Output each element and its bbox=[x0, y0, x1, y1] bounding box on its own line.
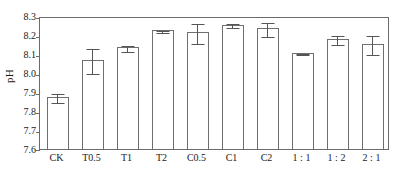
y-axis-tick-label: 8.2 bbox=[24, 31, 37, 41]
error-bar-cap-bottom bbox=[331, 45, 344, 46]
plot-inner bbox=[40, 18, 388, 149]
error-bar-cap-bottom bbox=[51, 103, 64, 104]
x-axis-tick-label: C0.5 bbox=[179, 152, 214, 164]
plot-area bbox=[39, 17, 389, 150]
bar bbox=[257, 28, 279, 149]
error-bar bbox=[296, 54, 309, 56]
error-bar-cap-top bbox=[86, 49, 99, 50]
y-axis-tick-label: 7.6 bbox=[24, 145, 37, 155]
error-bar-line bbox=[372, 36, 373, 56]
bar-group bbox=[110, 18, 145, 149]
bar bbox=[187, 32, 209, 149]
y-axis-tick-label: 7.7 bbox=[24, 126, 37, 136]
x-axis-tick-label: T0.5 bbox=[74, 152, 109, 164]
bar bbox=[152, 30, 174, 149]
bar-group bbox=[355, 18, 390, 149]
x-axis-tick-label: CK bbox=[39, 152, 74, 164]
error-bar bbox=[331, 36, 344, 46]
bar-group bbox=[40, 18, 75, 149]
x-axis-tick-label: C2 bbox=[249, 152, 284, 164]
error-bar bbox=[261, 23, 274, 38]
bar-group bbox=[250, 18, 285, 149]
error-bar-cap-top bbox=[331, 36, 344, 37]
error-bar-cap-bottom bbox=[86, 74, 99, 75]
x-axis-tick-label: 2 : 1 bbox=[354, 152, 389, 164]
error-bar bbox=[121, 46, 134, 52]
y-axis-tick-label: 8.0 bbox=[24, 69, 37, 79]
error-bar bbox=[191, 24, 204, 45]
bar bbox=[117, 47, 139, 149]
ph-bar-chart: pH 7.67.77.87.98.08.18.28.3 CKT0.5T1T2C0… bbox=[0, 0, 395, 181]
x-axis-tick-label: T1 bbox=[109, 152, 144, 164]
error-bar-cap-top bbox=[261, 23, 274, 24]
bar bbox=[327, 39, 349, 149]
bar bbox=[47, 97, 69, 149]
error-bar-cap-top bbox=[191, 24, 204, 25]
error-bar-cap-top bbox=[226, 24, 239, 25]
error-bar-line bbox=[267, 23, 268, 38]
y-axis-tick-label: 8.1 bbox=[24, 50, 37, 60]
y-axis-tick-mark bbox=[36, 150, 40, 151]
bar-group bbox=[320, 18, 355, 149]
bar bbox=[362, 44, 384, 149]
error-bar-cap-bottom bbox=[191, 44, 204, 45]
error-bar-cap-bottom bbox=[156, 33, 169, 34]
bar-group bbox=[145, 18, 180, 149]
error-bar-cap-bottom bbox=[366, 55, 379, 56]
y-axis-tick-labels: 7.67.77.87.98.08.18.28.3 bbox=[14, 12, 38, 150]
x-axis-tick-label: 1 : 1 bbox=[284, 152, 319, 164]
x-axis-tick-label: C1 bbox=[214, 152, 249, 164]
error-bar bbox=[51, 94, 64, 104]
error-bar bbox=[366, 36, 379, 56]
error-bar bbox=[156, 31, 169, 34]
error-bar-line bbox=[197, 24, 198, 45]
error-bar bbox=[226, 24, 239, 29]
error-bar-cap-bottom bbox=[261, 37, 274, 38]
y-axis-tick-label: 7.9 bbox=[24, 88, 37, 98]
y-axis-tick-label: 8.3 bbox=[24, 12, 37, 22]
error-bar bbox=[86, 49, 99, 75]
error-bar-cap-bottom bbox=[226, 28, 239, 29]
error-bar-cap-top bbox=[366, 36, 379, 37]
bar-group bbox=[75, 18, 110, 149]
x-axis-tick-labels: CKT0.5T1T2C0.5C1C21 : 11 : 22 : 1 bbox=[39, 152, 389, 170]
bar bbox=[292, 53, 314, 149]
error-bar-cap-bottom bbox=[296, 55, 309, 56]
error-bar-cap-bottom bbox=[121, 52, 134, 53]
error-bar-cap-top bbox=[51, 94, 64, 95]
bar-group bbox=[285, 18, 320, 149]
x-axis-tick-label: T2 bbox=[144, 152, 179, 164]
bar-group bbox=[180, 18, 215, 149]
bar bbox=[222, 25, 244, 149]
error-bar-line bbox=[92, 49, 93, 75]
error-bar-cap-top bbox=[121, 46, 134, 47]
bar-group bbox=[215, 18, 250, 149]
x-axis-tick-label: 1 : 2 bbox=[319, 152, 354, 164]
error-bar-cap-top bbox=[156, 31, 169, 32]
y-axis-tick-label: 7.8 bbox=[24, 107, 37, 117]
